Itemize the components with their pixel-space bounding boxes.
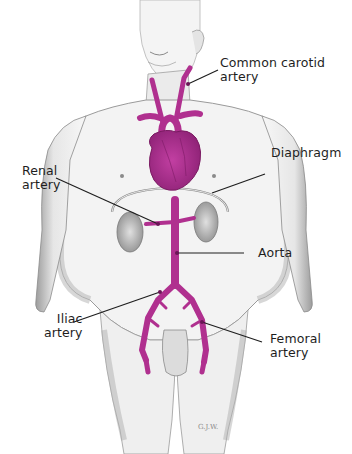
kidney-right <box>194 202 218 242</box>
genitals <box>162 330 188 376</box>
anatomy-diagram: Common carotid artery Diaphragm Renal ar… <box>0 0 352 454</box>
label-iliac-artery: Iliac artery <box>44 312 83 340</box>
artist-credit: G.J.W. <box>198 423 218 431</box>
nipple-left <box>120 174 124 178</box>
leader-common-carotid <box>188 70 218 84</box>
label-common-carotid-artery: Common carotid artery <box>220 56 325 84</box>
label-diaphragm: Diaphragm <box>271 146 341 160</box>
kidney-left <box>117 212 143 252</box>
head <box>140 0 204 83</box>
label-renal-artery: Renal artery <box>22 164 61 192</box>
label-aorta: Aorta <box>258 246 292 260</box>
label-femoral-artery: Femoral artery <box>270 332 321 360</box>
nipple-right <box>212 174 216 178</box>
